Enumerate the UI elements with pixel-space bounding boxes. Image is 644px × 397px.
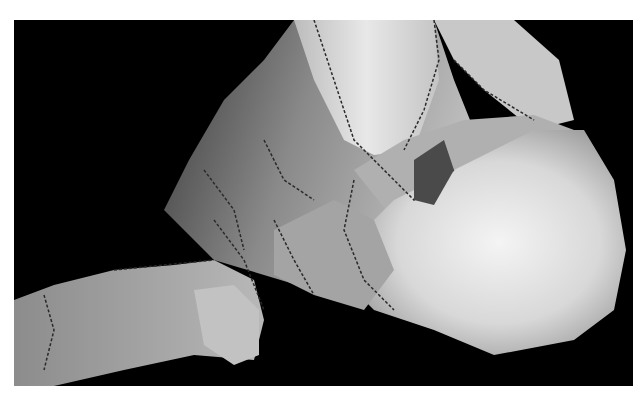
foot-bones-illustration xyxy=(14,20,633,386)
bone-rendering-frame xyxy=(14,20,633,386)
